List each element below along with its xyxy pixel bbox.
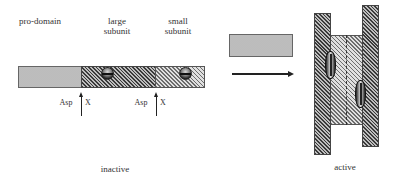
pro-domain-segment (18, 66, 82, 88)
large-subunit-label-line2: subunit (92, 27, 142, 36)
asp-label-1: Asp (57, 98, 75, 107)
released-pro-domain-block (229, 34, 293, 57)
x-label-1: X (84, 98, 92, 107)
small-subunit-active-site-icon (179, 67, 192, 80)
large-subunit-segment (81, 66, 156, 88)
large-subunit-left (314, 13, 331, 155)
cleavage-arrow-2-icon (156, 95, 157, 116)
dimer-interface-line (346, 35, 347, 125)
small-subunit-label-line1: small (153, 17, 203, 26)
small-subunit-label-line2: subunit (153, 27, 203, 36)
active-site-right-icon (355, 80, 366, 108)
activation-arrow-icon (232, 73, 289, 75)
large-subunit-label-line1: large (92, 17, 142, 26)
inactive-caption: inactive (85, 165, 145, 174)
asp-label-2: Asp (132, 98, 150, 107)
pro-domain-label: pro-domain (5, 17, 75, 26)
active-caption: active (320, 163, 370, 172)
large-subunit-active-site-icon (101, 67, 114, 80)
cleavage-arrow-1-icon (81, 95, 82, 116)
large-subunit-right (362, 5, 379, 147)
x-label-2: X (159, 98, 167, 107)
active-site-left-icon (325, 51, 336, 79)
